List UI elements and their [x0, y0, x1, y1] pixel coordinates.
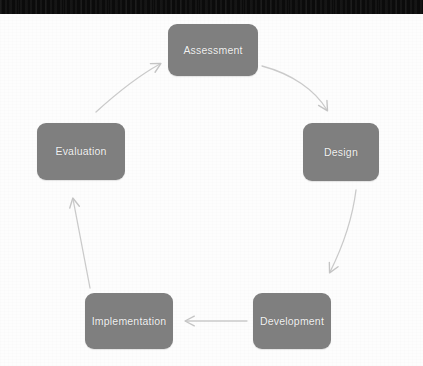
node-implementation[interactable]: Implementation — [85, 293, 173, 349]
node-design-label: Design — [324, 147, 358, 158]
node-development[interactable]: Development — [253, 293, 331, 349]
arrow-design-to-development — [330, 190, 356, 272]
arrow-assessment-to-design — [262, 66, 327, 110]
node-development-label: Development — [260, 316, 324, 327]
node-assessment-label: Assessment — [183, 45, 242, 56]
node-design[interactable]: Design — [303, 123, 379, 181]
arrow-evaluation-to-assessment — [96, 64, 160, 112]
node-evaluation[interactable]: Evaluation — [37, 123, 125, 180]
node-assessment[interactable]: Assessment — [168, 24, 258, 76]
node-implementation-label: Implementation — [92, 316, 167, 327]
arrow-implementation-to-evaluation — [73, 199, 90, 288]
diagram-canvas: Assessment Design Development Implementa… — [0, 0, 423, 366]
node-evaluation-label: Evaluation — [55, 146, 106, 157]
